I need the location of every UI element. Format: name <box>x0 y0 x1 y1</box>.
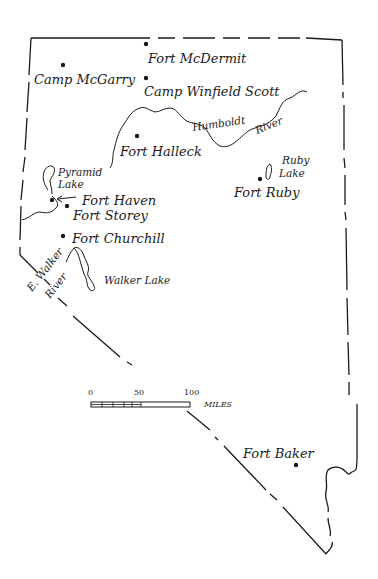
scale-tick-50: 50 <box>134 388 144 397</box>
label-fort-ruby: Fort Ruby <box>233 185 300 200</box>
scale-bar: 0 50 100 MILES <box>88 388 233 409</box>
scale-unit: MILES <box>203 400 233 409</box>
state-boundary <box>20 38 357 554</box>
camp-mcgarry-dot <box>61 63 65 67</box>
label-humboldt-river: River <box>252 114 285 137</box>
fort-mcdermit-dot <box>144 42 148 46</box>
label-ruby-lake: Lake <box>278 167 305 179</box>
label-camp-mcgarry: Camp McGarry <box>34 72 136 87</box>
label-fort-mcdermit: Fort McDermit <box>147 51 247 66</box>
label-humboldt: Humboldt <box>191 114 247 134</box>
fort-haven-arrow <box>57 196 76 202</box>
fort-halleck-dot <box>135 134 139 138</box>
label-ruby: Ruby <box>281 154 310 166</box>
fort-haven-dot <box>50 198 54 202</box>
label-fort-churchill: Fort Churchill <box>71 231 165 246</box>
label-fort-baker: Fort Baker <box>242 446 315 461</box>
ruby-lake <box>266 164 272 179</box>
pyramid-lake <box>43 166 54 194</box>
label-pyramid: Pyramid <box>57 166 103 178</box>
label-pyramid-lake: Lake <box>57 178 84 190</box>
fort-ruby-dot <box>258 177 262 181</box>
fort-baker-dot <box>294 463 298 467</box>
fort-storey-dot <box>65 204 69 208</box>
label-walker-lake: Walker Lake <box>104 274 170 286</box>
label-fort-haven: Fort Haven <box>81 193 156 208</box>
e-walker-river <box>66 248 74 262</box>
scale-tick-0: 0 <box>88 388 93 397</box>
label-fort-storey: Fort Storey <box>72 208 149 223</box>
label-camp-winfield-scott: Camp Winfield Scott <box>144 84 280 99</box>
walker-lake <box>74 247 95 290</box>
label-fort-halleck: Fort Halleck <box>119 144 202 159</box>
camp-winfield-scott-dot <box>144 76 148 80</box>
scale-tick-100: 100 <box>184 388 199 397</box>
fort-churchill-dot <box>61 234 65 238</box>
fort-markers <box>50 42 298 467</box>
nevada-forts-map: Fort McDermit Camp McGarry Camp Winfield… <box>0 0 378 579</box>
